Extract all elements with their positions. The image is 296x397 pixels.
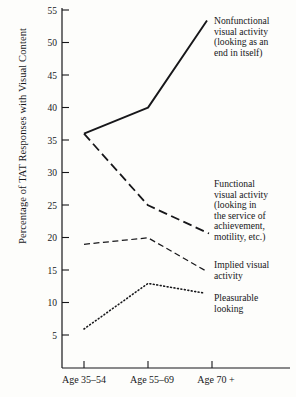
annotation-functional-line6: motility, etc.): [214, 232, 294, 243]
annotation-implied-line2: activity: [214, 271, 294, 282]
chart-figure: 55 50 45 40 35 30 25 20 15 10 5 Age 35–5…: [0, 0, 296, 397]
x-tick-label-age-35-54: Age 35–54: [62, 374, 106, 385]
y-tick-label-15: 15: [48, 266, 58, 276]
x-tick-label-age-55-69: Age 55–69: [130, 374, 174, 385]
series-group: [84, 21, 209, 330]
y-tick-label-5: 5: [52, 331, 57, 341]
series-line-implied: [84, 238, 205, 271]
annotation-implied: Implied visual activity: [214, 260, 294, 281]
y-tick-label-40: 40: [48, 103, 58, 113]
x-axis-ticks: [84, 361, 212, 368]
annotation-functional-line1: Functional: [214, 179, 294, 190]
y-tick-label-20: 20: [48, 233, 58, 243]
series-line-functional: [84, 134, 209, 234]
annotation-nonfunctional-line1: Nonfunctional: [214, 16, 294, 27]
annotation-implied-line1: Implied visual: [214, 260, 294, 271]
y-axis-ticks: [62, 10, 69, 335]
annotation-pleasurable-line1: Pleasurable: [214, 293, 294, 304]
y-tick-label-35: 35: [48, 136, 58, 146]
y-tick-label-30: 30: [48, 168, 58, 178]
annotation-nonfunctional-line4: end in itself): [214, 48, 294, 59]
series-line-nonfunctional: [84, 21, 207, 134]
y-tick-label-25: 25: [48, 201, 58, 211]
annotation-nonfunctional: Nonfunctional visual activity (looking a…: [214, 16, 294, 58]
x-tick-label-age-70-plus: Age 70 +: [197, 374, 235, 385]
annotation-pleasurable: Pleasurable looking: [214, 293, 294, 314]
series-line-pleasurable: [84, 283, 205, 329]
y-tick-label-55: 55: [48, 6, 58, 16]
annotation-functional: Functional visual activity (looking in t…: [214, 179, 294, 243]
y-tick-label-50: 50: [48, 38, 58, 48]
y-tick-label-45: 45: [48, 71, 58, 81]
y-tick-label-10: 10: [48, 298, 58, 308]
annotation-pleasurable-line2: looking: [214, 304, 294, 315]
